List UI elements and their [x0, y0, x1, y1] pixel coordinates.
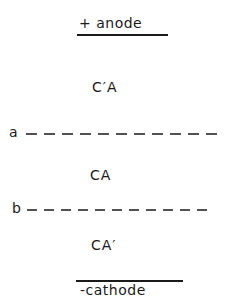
boundary-line-a — [26, 133, 222, 136]
boundary-line-b — [27, 209, 214, 212]
boundary-label-b: b — [12, 200, 21, 216]
zone-label-middle: CA — [90, 167, 111, 183]
zone-label-lower: CA′ — [91, 237, 117, 253]
boundary-label-a: a — [9, 124, 18, 140]
cathode-label: -cathode — [80, 282, 146, 298]
anode-line — [77, 34, 168, 36]
zone-label-upper: C′A — [92, 79, 118, 95]
anode-label: + anode — [79, 15, 142, 31]
